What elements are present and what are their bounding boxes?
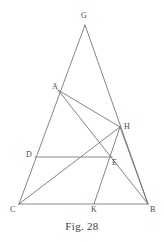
vertex-label-a: A [52,83,58,91]
segments-group [19,25,148,204]
segment-A-B [58,90,148,204]
vertex-label-g: G [81,12,87,20]
figure-caption: Fig. 28 [0,220,164,232]
vertex-label-d: D [26,151,32,159]
vertex-label-c: C [10,206,15,214]
geometry-canvas [0,0,164,242]
vertex-label-e: E [112,159,117,167]
vertex-label-h: H [124,123,130,131]
segment-C-G [19,25,85,204]
segment-H-B [120,127,148,204]
segment-A-H [58,90,120,127]
vertex-label-b: B [150,206,155,214]
vertex-label-k: K [91,206,97,214]
geometry-figure: GAHDECKB Fig. 28 [0,0,164,242]
segment-C-H [19,127,120,204]
